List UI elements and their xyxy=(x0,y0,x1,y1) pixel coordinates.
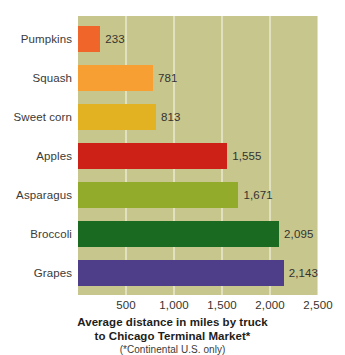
value-label-squash: 781 xyxy=(158,65,178,91)
caption-footnote: (*Continental U.S. only) xyxy=(0,343,345,355)
x-axis-tick-labels: 5001,0001,5002,0002,500 xyxy=(0,298,345,314)
caption-line-2: to Chicago Terminal Market* xyxy=(0,330,345,344)
category-label-grapes: Grapes xyxy=(0,260,72,286)
x-tick-500: 500 xyxy=(103,298,149,313)
value-label-apples: 1,555 xyxy=(232,143,261,169)
bar-grapes xyxy=(78,260,284,286)
caption-line-1: Average distance in miles by truck xyxy=(0,316,345,330)
value-label-sweet-corn: 813 xyxy=(161,104,181,130)
value-label-pumpkins: 233 xyxy=(105,26,125,52)
x-tick-2000: 2,000 xyxy=(247,298,293,313)
gridline xyxy=(269,16,271,295)
x-tick-1500: 1,500 xyxy=(199,298,245,313)
bar-apples xyxy=(78,143,227,169)
category-label-squash: Squash xyxy=(0,65,72,91)
category-label-pumpkins: Pumpkins xyxy=(0,26,72,52)
bar-pumpkins xyxy=(78,26,100,52)
bar-sweet-corn xyxy=(78,104,156,130)
gridline xyxy=(317,16,318,295)
category-label-asparagus: Asparagus xyxy=(0,182,72,208)
bar-chart-figure: PumpkinsSquashSweet cornApplesAsparagusB… xyxy=(0,0,345,355)
value-label-broccoli: 2,095 xyxy=(284,221,313,247)
category-label-apples: Apples xyxy=(0,143,72,169)
category-label-sweet-corn: Sweet corn xyxy=(0,104,72,130)
bar-asparagus xyxy=(78,182,238,208)
value-label-grapes: 2,143 xyxy=(289,260,318,286)
x-tick-2500: 2,500 xyxy=(295,298,341,313)
plot-area xyxy=(78,16,318,295)
chart-caption: Average distance in miles by truck to Ch… xyxy=(0,316,345,355)
bar-broccoli xyxy=(78,221,279,247)
bar-squash xyxy=(78,65,153,91)
value-label-asparagus: 1,671 xyxy=(243,182,272,208)
x-tick-1000: 1,000 xyxy=(151,298,197,313)
category-label-broccoli: Broccoli xyxy=(0,221,72,247)
